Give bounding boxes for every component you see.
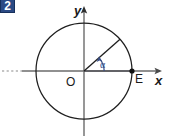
point-e-label: E xyxy=(135,73,143,85)
unit-circle-graphic xyxy=(0,0,169,139)
y-axis-label: y xyxy=(74,4,81,17)
point-e-marker xyxy=(129,68,134,73)
unit-circle-figure: 2 y x O E α xyxy=(0,0,169,139)
x-axis-label: x xyxy=(155,74,162,87)
angle-alpha-label: α xyxy=(100,60,105,70)
origin-label: O xyxy=(66,76,75,88)
figure-number-badge: 2 xyxy=(0,0,15,13)
